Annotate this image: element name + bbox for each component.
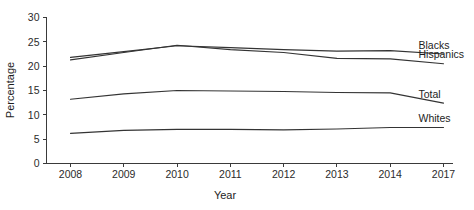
y-tick-label: 5 (34, 133, 40, 145)
series-lines-group (71, 45, 444, 133)
x-axis-ticks: 20082009201020112012201320142017 (59, 164, 456, 181)
x-tick-label: 2012 (272, 168, 296, 180)
x-tick-label: 2009 (112, 168, 136, 180)
y-tick-label: 20 (28, 60, 40, 72)
series-label-whites: Whites (419, 112, 451, 124)
y-tick-label: 0 (34, 157, 40, 169)
y-axis-ticks: 051015202530 (28, 11, 47, 169)
series-label-total: Total (419, 88, 441, 100)
y-tick-label: 30 (28, 11, 40, 23)
x-tick-label: 2011 (219, 168, 242, 180)
x-tick-label: 2008 (59, 168, 83, 180)
series-line-total (71, 91, 444, 104)
series-labels-group: BlacksHispanicsTotalWhites (419, 39, 465, 124)
line-chart: Percentage 051015202530 2008200920102011… (0, 0, 474, 210)
series-label-hispanics: Hispanics (419, 48, 465, 60)
x-tick-label: 2010 (165, 168, 189, 180)
y-tick-label: 15 (28, 84, 40, 96)
series-line-whites (71, 127, 444, 133)
y-tick-label: 25 (28, 36, 40, 48)
x-tick-label: 2014 (379, 168, 403, 180)
x-axis-title: Year (214, 189, 237, 201)
x-tick-label: 2017 (432, 168, 456, 180)
y-axis-title: Percentage (4, 62, 16, 118)
y-tick-label: 10 (28, 109, 40, 121)
chart-plot-area: Percentage 051015202530 2008200920102011… (0, 0, 474, 210)
x-tick-label: 2013 (325, 168, 349, 180)
series-line-hispanics (71, 45, 444, 63)
